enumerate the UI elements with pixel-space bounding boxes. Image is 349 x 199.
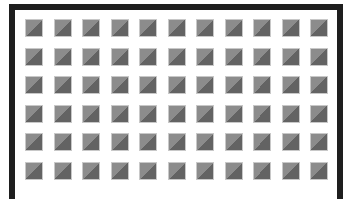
diagonal-split-square-icon [196, 133, 214, 151]
diagonal-split-square-icon [282, 19, 300, 37]
diagonal-split-square-icon [225, 76, 243, 94]
diagonal-split-square-icon [310, 76, 328, 94]
diagonal-split-square-icon [54, 162, 72, 180]
diagonal-split-square-icon [253, 19, 271, 37]
diagonal-split-square-icon [310, 105, 328, 123]
diagonal-split-square-icon [111, 76, 129, 94]
diagonal-split-square-icon [111, 105, 129, 123]
diagonal-split-square-icon [25, 105, 43, 123]
diagonal-split-square-icon [82, 105, 100, 123]
diagonal-split-square-icon [25, 162, 43, 180]
diagonal-split-square-icon [168, 48, 186, 66]
diagonal-split-square-icon [310, 133, 328, 151]
diagonal-split-square-icon [139, 162, 157, 180]
diagonal-split-square-icon [253, 162, 271, 180]
diagonal-split-square-icon [82, 19, 100, 37]
diagonal-split-square-icon [139, 48, 157, 66]
diagonal-split-square-icon [139, 105, 157, 123]
diagonal-split-square-icon [196, 48, 214, 66]
diagonal-split-square-icon [54, 76, 72, 94]
diagonal-split-square-icon [168, 162, 186, 180]
diagonal-split-square-icon [111, 19, 129, 37]
diagonal-split-square-icon [225, 162, 243, 180]
diagonal-split-square-icon [225, 133, 243, 151]
diagonal-split-square-icon [253, 76, 271, 94]
diagonal-split-square-icon [25, 19, 43, 37]
tile-grid [25, 19, 328, 180]
diagonal-split-square-icon [196, 19, 214, 37]
diagonal-split-square-icon [54, 133, 72, 151]
diagonal-split-square-icon [253, 48, 271, 66]
diagonal-split-square-icon [225, 48, 243, 66]
diagonal-split-square-icon [253, 133, 271, 151]
diagonal-split-square-icon [82, 48, 100, 66]
diagonal-split-square-icon [25, 133, 43, 151]
diagonal-split-square-icon [111, 133, 129, 151]
diagonal-split-square-icon [310, 48, 328, 66]
diagonal-split-square-icon [139, 133, 157, 151]
diagonal-split-square-icon [54, 105, 72, 123]
diagonal-split-square-icon [82, 76, 100, 94]
diagonal-split-square-icon [54, 48, 72, 66]
diagonal-split-square-icon [282, 76, 300, 94]
diagonal-split-square-icon [282, 105, 300, 123]
diagonal-split-square-icon [82, 133, 100, 151]
diagonal-split-square-icon [310, 162, 328, 180]
diagonal-split-square-icon [168, 133, 186, 151]
diagonal-split-square-icon [139, 76, 157, 94]
diagonal-split-square-icon [282, 48, 300, 66]
diagonal-split-square-icon [54, 19, 72, 37]
diagonal-split-square-icon [282, 162, 300, 180]
diagonal-split-square-icon [168, 19, 186, 37]
diagonal-split-square-icon [111, 48, 129, 66]
diagonal-split-square-icon [196, 76, 214, 94]
diagonal-split-square-icon [111, 162, 129, 180]
diagonal-split-square-icon [253, 105, 271, 123]
diagonal-split-square-icon [168, 76, 186, 94]
diagonal-split-square-icon [139, 19, 157, 37]
diagonal-split-square-icon [310, 19, 328, 37]
diagonal-split-square-icon [282, 133, 300, 151]
diagonal-split-square-icon [196, 105, 214, 123]
diagonal-split-square-icon [225, 105, 243, 123]
diagonal-split-square-icon [168, 105, 186, 123]
diagonal-split-square-icon [225, 19, 243, 37]
diagonal-split-square-icon [25, 48, 43, 66]
diagonal-split-square-icon [196, 162, 214, 180]
diagonal-split-square-icon [82, 162, 100, 180]
diagonal-split-square-icon [25, 76, 43, 94]
